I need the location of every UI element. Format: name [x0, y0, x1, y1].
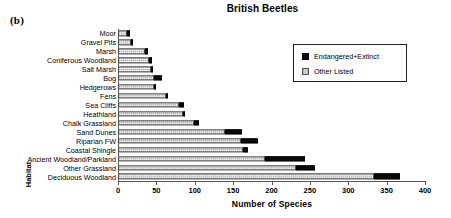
bar-segment-other-listed — [118, 165, 296, 170]
x-axis-tick — [310, 181, 311, 185]
x-axis-tick-label: 100 — [188, 186, 201, 195]
x-axis-tick-label: 200 — [265, 186, 278, 195]
bar-segment-other-listed — [118, 147, 243, 152]
y-axis-tick-label: Marsh — [96, 47, 116, 56]
y-axis-tick-label: Coastal Shingle — [66, 145, 116, 154]
x-axis-tick — [195, 181, 196, 185]
bar-segment-endangered-extinct — [183, 111, 185, 116]
stacked-bar — [118, 49, 148, 54]
bar-segment-endangered-extinct — [374, 174, 399, 179]
bar-row — [118, 118, 425, 127]
bar-segment-endangered-extinct — [194, 120, 199, 125]
bar-segment-other-listed — [118, 93, 166, 98]
x-axis-tick-label: 150 — [227, 186, 240, 195]
x-axis-tick-label: 250 — [304, 186, 317, 195]
x-axis-tick-label: 0 — [116, 186, 120, 195]
legend-swatch-icon — [302, 68, 309, 75]
bar-segment-endangered-extinct — [265, 156, 305, 161]
bar-segment-endangered-extinct — [179, 102, 184, 107]
bar-row — [118, 109, 425, 118]
bar-segment-endangered-extinct — [243, 147, 248, 152]
stacked-bar — [118, 129, 242, 134]
bar-row — [118, 136, 425, 145]
stacked-bar — [118, 174, 400, 179]
y-axis-tick-label: Salt Marsh — [82, 65, 116, 74]
legend-item-endangered-extinct: Endangered+Extinct — [302, 52, 379, 61]
legend-label: Other Listed — [314, 67, 353, 76]
y-axis-tick-label: Other Grassland — [63, 163, 116, 172]
x-axis-tick-label: 300 — [342, 186, 355, 195]
y-axis-tick-label: Sand Dunes — [76, 127, 116, 136]
bar-segment-endangered-extinct — [154, 84, 156, 89]
stacked-bar — [118, 93, 168, 98]
legend-label: Endangered+Extinct — [314, 52, 379, 61]
bar-segment-other-listed — [118, 174, 374, 179]
bar-row — [118, 145, 425, 154]
y-axis-tick-labels: MoorGravel PitsMarshConiferous WoodlandS… — [0, 29, 116, 181]
x-axis-tick — [118, 181, 119, 185]
bar-segment-other-listed — [118, 31, 127, 36]
bar-segment-other-listed — [118, 138, 241, 143]
stacked-bar — [118, 120, 199, 125]
bar-segment-endangered-extinct — [151, 67, 153, 72]
x-axis-tick-label: 400 — [419, 186, 432, 195]
stacked-bar — [118, 67, 153, 72]
stacked-bar — [118, 40, 133, 45]
y-axis-tick-label: Riparian FW — [76, 136, 116, 145]
x-axis-tick — [233, 181, 234, 185]
bar-row — [118, 101, 425, 110]
y-axis-tick-label: Hedgerows — [80, 83, 116, 92]
y-axis-tick-label: Gravel Pits — [81, 38, 116, 47]
stacked-bar — [118, 147, 248, 152]
stacked-bar — [118, 138, 258, 143]
x-axis-title: Number of Species — [118, 199, 426, 209]
bar-row — [118, 92, 425, 101]
y-axis-tick-label: Deciduous Woodland — [48, 172, 116, 181]
bar-segment-endangered-extinct — [225, 129, 243, 134]
bar-segment-other-listed — [118, 58, 149, 63]
bar-row — [118, 163, 425, 172]
bar-segment-other-listed — [118, 111, 183, 116]
bar-row — [118, 29, 425, 38]
bar-segment-other-listed — [118, 67, 151, 72]
bar-segment-endangered-extinct — [149, 58, 152, 63]
x-axis-tick — [156, 181, 157, 185]
x-axis-tick-label: 50 — [152, 186, 160, 195]
legend-item-other-listed: Other Listed — [302, 67, 353, 76]
chart-title: British Beetles — [0, 3, 451, 14]
bar-segment-endangered-extinct — [127, 31, 130, 36]
stacked-bar — [118, 31, 130, 36]
bar-segment-endangered-extinct — [131, 40, 133, 45]
legend-swatch-icon — [302, 53, 309, 60]
y-axis-tick-label: Moor — [100, 29, 116, 38]
x-axis-tick-label: 350 — [380, 186, 393, 195]
bar-segment-endangered-extinct — [241, 138, 258, 143]
bar-row — [118, 154, 425, 163]
stacked-bar — [118, 102, 184, 107]
x-axis-tick — [425, 181, 426, 185]
bar-segment-other-listed — [118, 129, 225, 134]
bar-segment-other-listed — [118, 120, 194, 125]
y-axis-tick-label: Chalk Grassland — [63, 118, 116, 127]
x-axis-tick — [272, 181, 273, 185]
y-axis-tick-label: Ancient Woodland/Parkland — [27, 154, 116, 163]
y-axis-tick-label: Fens — [100, 92, 116, 101]
stacked-bar — [118, 76, 162, 81]
stacked-bar — [118, 165, 315, 170]
bar-segment-other-listed — [118, 49, 145, 54]
stacked-bar — [118, 58, 152, 63]
bar-segment-endangered-extinct — [296, 165, 315, 170]
y-axis-tick-label: Bog — [103, 74, 116, 83]
panel-label: (b) — [10, 14, 24, 26]
x-axis-tick — [348, 181, 349, 185]
stacked-bar — [118, 84, 156, 89]
bar-segment-endangered-extinct — [154, 76, 162, 81]
bar-segment-other-listed — [118, 102, 179, 107]
bar-segment-endangered-extinct — [145, 49, 148, 54]
stacked-bar — [118, 156, 305, 161]
y-axis-tick-label: Heathland — [83, 109, 116, 118]
legend: Endangered+Extinct Other Listed — [293, 44, 407, 82]
y-axis-tick-label: Sea Cliffs — [85, 101, 116, 110]
bar-segment-other-listed — [118, 40, 131, 45]
bar-segment-other-listed — [118, 76, 154, 81]
